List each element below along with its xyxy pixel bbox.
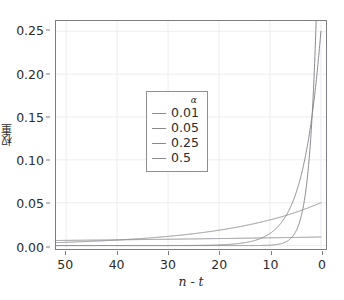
legend: α 0.010.050.250.5	[146, 91, 208, 172]
y-tick-mark	[46, 73, 50, 74]
x-tick-label: 10	[263, 257, 279, 272]
y-tick-label: 0.20	[16, 66, 44, 81]
y-tick-mark	[46, 30, 50, 31]
legend-item: 0.5	[152, 151, 199, 166]
x-tick-mark	[219, 251, 220, 255]
legend-line-swatch	[152, 158, 166, 159]
legend-item: 0.25	[152, 136, 199, 151]
x-tick-label: 30	[160, 257, 176, 272]
legend-item-label: 0.25	[171, 137, 199, 150]
x-tick-label: 50	[57, 257, 73, 272]
y-tick-label: 0.15	[16, 109, 44, 124]
legend-item-label: 0.5	[171, 152, 191, 165]
x-tick-mark	[117, 251, 118, 255]
legend-item: 0.05	[152, 121, 199, 136]
y-tick-mark	[46, 160, 50, 161]
x-tick-label: 0	[318, 257, 326, 272]
x-tick-label: 20	[211, 257, 227, 272]
x-tick-mark	[65, 251, 66, 255]
x-axis-title: n - t	[55, 274, 327, 289]
x-tick-label: 40	[109, 257, 125, 272]
y-tick-mark	[46, 246, 50, 247]
chart-figure: 0.000.050.100.150.200.25 权重 α 0.010.050.…	[0, 0, 344, 300]
x-tick-mark	[168, 251, 169, 255]
legend-item-label: 0.05	[171, 122, 199, 135]
x-tick-mark	[322, 251, 323, 255]
x-tick-mark	[271, 251, 272, 255]
y-tick-mark	[46, 203, 50, 204]
series-line-0-01	[56, 237, 321, 240]
legend-entries: 0.010.050.250.5	[152, 106, 199, 166]
legend-item: 0.01	[152, 106, 199, 121]
legend-line-swatch	[152, 113, 166, 114]
legend-item-label: 0.01	[171, 107, 199, 120]
y-tick-label: 0.00	[16, 239, 44, 254]
y-axis-title: 权重	[2, 124, 13, 146]
top-cropped-caption	[6, 0, 336, 4]
legend-title: α	[152, 96, 199, 105]
legend-line-swatch	[152, 128, 166, 129]
y-tick-label: 0.10	[16, 153, 44, 168]
y-tick-mark	[46, 116, 50, 117]
y-tick-label: 0.25	[16, 23, 44, 38]
legend-line-swatch	[152, 143, 166, 144]
x-axis-ticks: 50403020100	[55, 251, 327, 273]
y-tick-label: 0.05	[16, 196, 44, 211]
